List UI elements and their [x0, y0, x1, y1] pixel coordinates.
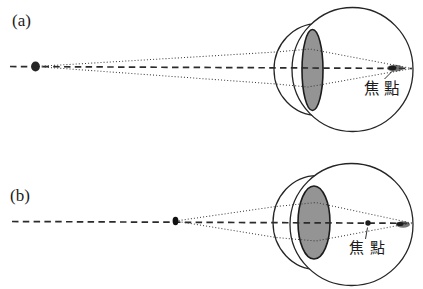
focal-label-a: 焦點: [364, 80, 404, 97]
convergence-core-b: [397, 222, 404, 226]
panel-a-label: (a): [12, 11, 31, 30]
lens-a: [302, 30, 323, 111]
panel-b: (b) 焦點: [10, 164, 413, 286]
object-point-b: [173, 217, 179, 225]
diagram-canvas: (a) 焦點 (b): [0, 0, 423, 289]
focal-label-b: 焦點: [349, 240, 391, 256]
convergence-core-a: [389, 66, 397, 70]
panel-a: (a) 焦點: [10, 8, 413, 132]
object-point-a: [31, 62, 40, 72]
panel-b-label: (b): [10, 186, 30, 205]
eye-accommodation-diagram: (a) 焦點 (b): [0, 0, 423, 289]
focal-point-dot-b: [365, 220, 370, 225]
